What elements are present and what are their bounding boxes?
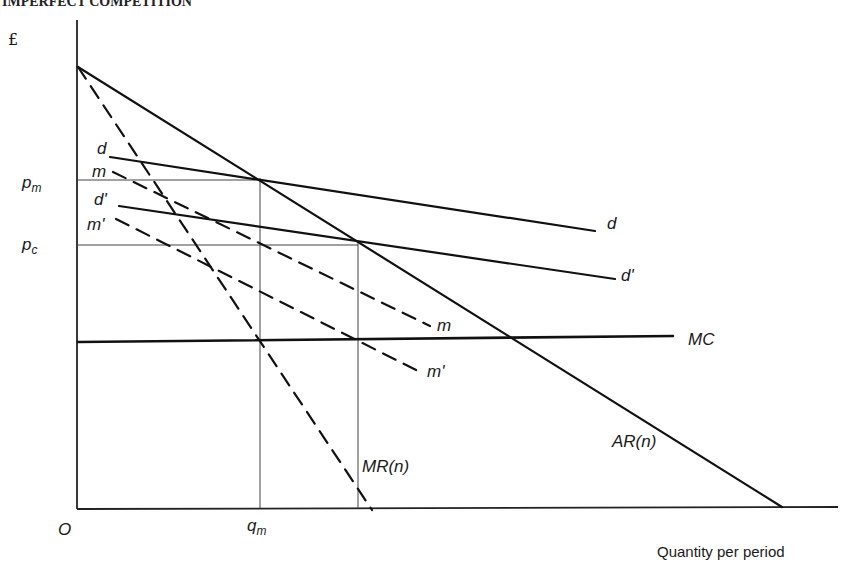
qm-tick-label: qm [247, 516, 266, 538]
m-end-label: m [437, 316, 451, 335]
m-prime-curve [116, 219, 420, 372]
origin-label: O [58, 520, 71, 539]
d-curve [110, 157, 595, 231]
d-start-label: d [97, 139, 107, 158]
x-axis-label: Quantity per period [657, 543, 785, 560]
diagram-canvas: IMPERFECT COMPETITION £ O Quantity per p… [0, 0, 862, 578]
ar-curve [78, 67, 782, 507]
curves [78, 67, 782, 510]
mr-label: MR(n) [362, 457, 409, 476]
d-end-label: d [607, 214, 617, 233]
page-heading: IMPERFECT COMPETITION [2, 0, 192, 9]
x-axis [77, 507, 838, 509]
mc-curve [78, 336, 673, 342]
ar-label: AR(n) [611, 432, 656, 451]
mc-label: MC [688, 330, 715, 349]
guide-lines [77, 178, 358, 508]
m-start-label: m [92, 162, 106, 181]
pc-tick-label: pc [21, 235, 37, 257]
axes [77, 20, 838, 509]
d-prime-end-label: d' [621, 266, 634, 285]
y-axis-label: £ [8, 30, 18, 49]
m-curve [113, 172, 430, 326]
m-prime-end-label: m' [427, 362, 445, 381]
pm-tick-label: pm [21, 173, 41, 195]
d-prime-start-label: d' [94, 190, 107, 209]
m-prime-start-label: m' [87, 215, 105, 234]
mr-curve [78, 67, 372, 510]
